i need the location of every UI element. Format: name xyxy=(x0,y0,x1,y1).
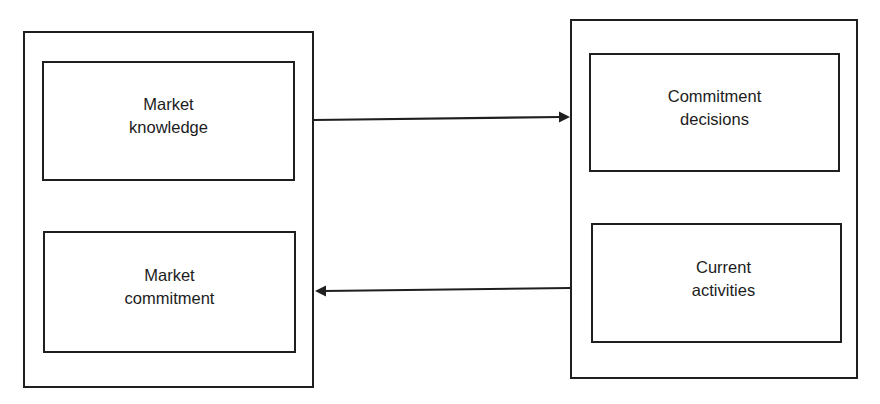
arrow-right-knowledge-to-decisions xyxy=(314,112,570,123)
connector-arrows xyxy=(0,0,880,404)
arrow-left-activities-to-commitment xyxy=(315,286,570,297)
